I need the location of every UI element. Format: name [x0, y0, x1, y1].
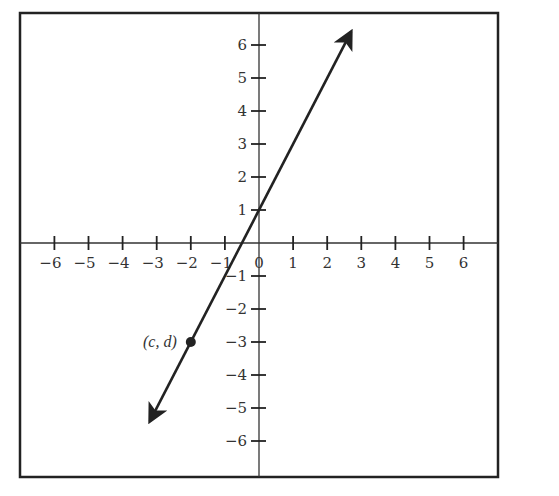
y-tick-label: 6 — [237, 36, 247, 54]
x-tick-label: 2 — [322, 254, 332, 272]
x-tick-label: −5 — [73, 254, 95, 272]
line-y-2x-plus-1 — [150, 32, 351, 421]
x-tick-label: −3 — [142, 254, 164, 272]
x-tick-label: −4 — [108, 254, 130, 272]
x-tick-label: 3 — [357, 254, 367, 272]
y-tick-label: 4 — [237, 102, 247, 120]
y-tick-label: 5 — [237, 69, 247, 87]
line-series — [150, 32, 351, 421]
x-axis-ticks: −6−5−4−3−2−10123456 — [39, 236, 468, 272]
point-c-d-label: (c, d) — [143, 333, 177, 351]
y-tick-label: 1 — [237, 201, 247, 219]
y-tick-label: −4 — [225, 366, 247, 384]
y-tick-label: −5 — [225, 399, 247, 417]
y-tick-label: −3 — [225, 333, 247, 351]
x-tick-label: 1 — [288, 254, 298, 272]
x-tick-label: 4 — [391, 254, 401, 272]
point-c-d-marker — [186, 337, 196, 347]
y-tick-label: −2 — [225, 300, 247, 318]
x-tick-label: −6 — [39, 254, 61, 272]
y-tick-label: 2 — [237, 168, 247, 186]
origin-label: 0 — [254, 254, 264, 272]
y-tick-label: 3 — [237, 135, 247, 153]
x-tick-label: −2 — [176, 254, 198, 272]
x-tick-label: 6 — [459, 254, 469, 272]
coordinate-plane-chart: −6−5−4−3−2−10123456 654321−1−2−3−4−5−6 (… — [0, 0, 559, 496]
y-tick-label: −6 — [225, 432, 247, 450]
x-tick-label: 5 — [425, 254, 435, 272]
